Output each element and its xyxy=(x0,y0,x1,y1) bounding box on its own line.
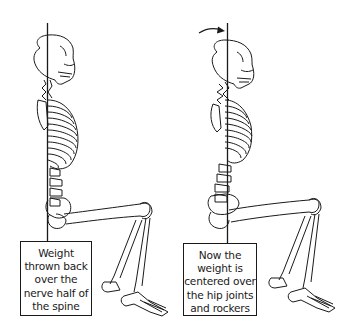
caption-right-line-4: the hip joints xyxy=(184,289,256,302)
figure-right-weight-centered: Now the weight is centered over the hip … xyxy=(175,0,349,336)
caption-left-line-3: over the xyxy=(21,273,91,286)
skull xyxy=(212,40,254,88)
caption-right-line-3: centered over xyxy=(184,275,256,288)
caption-right-line-2: weight is xyxy=(184,262,256,275)
caption-left-line-2: thrown back xyxy=(21,260,91,273)
caption-right: Now the weight is centered over the hip … xyxy=(183,243,257,316)
caption-left-line-5: the spine xyxy=(21,300,91,313)
caption-left-line-1: Weight xyxy=(21,247,91,260)
caption-left: Weight thrown back over the nerve half o… xyxy=(20,241,92,316)
curved-arrow-icon xyxy=(199,27,225,34)
figure-left-weight-back: Weight thrown back over the nerve half o… xyxy=(0,0,175,336)
caption-left-line-4: nerve half of xyxy=(21,287,91,300)
caption-right-line-5: and rockers xyxy=(184,302,256,315)
caption-right-line-1: Now the xyxy=(184,249,256,262)
pelvis xyxy=(208,194,239,215)
